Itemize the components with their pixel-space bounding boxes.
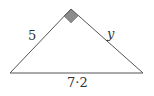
right-angle-marker [64, 9, 78, 23]
label-base: 7·2 [67, 75, 88, 90]
label-right-side: y [106, 26, 115, 41]
triangle-diagram: 5 y 7·2 [0, 0, 154, 96]
label-left-side: 5 [28, 28, 36, 43]
